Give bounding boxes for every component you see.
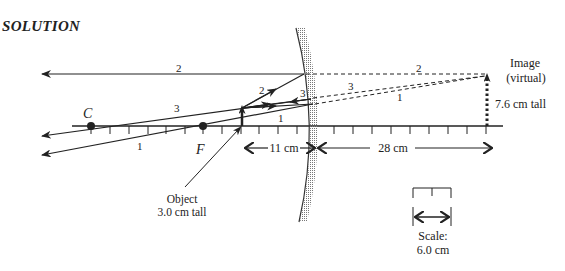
object-distance-dimension: 11 cm: [245, 141, 315, 155]
svg-text:F: F: [195, 142, 205, 157]
svg-text:3.0 cm tall: 3.0 cm tall: [158, 206, 207, 218]
ray-diagram: C F Object 3.0 cm tall 2 2 2 3 3 3: [0, 0, 565, 271]
svg-text:3: 3: [300, 87, 306, 99]
svg-text:7.6 cm tall: 7.6 cm tall: [495, 97, 547, 111]
focal-point: F: [195, 122, 207, 157]
svg-text:11 cm: 11 cm: [269, 141, 299, 155]
svg-text:Scale:: Scale:: [418, 229, 447, 243]
scale-bar: Scale: 6.0 cm: [413, 188, 451, 257]
image-label: Image (virtual) 7.6 cm tall: [495, 56, 547, 111]
svg-text:Object: Object: [167, 193, 198, 206]
svg-text:2: 2: [416, 62, 422, 74]
image-distance-dimension: 28 cm: [318, 141, 492, 155]
convex-mirror: [296, 28, 318, 222]
svg-text:2: 2: [176, 62, 182, 74]
svg-text:Image: Image: [510, 56, 540, 70]
svg-text:1: 1: [397, 91, 403, 103]
optical-axis: [72, 126, 503, 134]
svg-text:3: 3: [174, 102, 180, 114]
svg-text:28 cm: 28 cm: [378, 141, 408, 155]
svg-text:(virtual): (virtual): [506, 71, 545, 85]
svg-text:3: 3: [348, 80, 354, 92]
svg-text:6.0 cm: 6.0 cm: [417, 243, 450, 257]
svg-text:1: 1: [137, 140, 143, 152]
svg-text:1: 1: [278, 112, 284, 124]
svg-text:2: 2: [259, 84, 265, 96]
svg-text:C: C: [83, 106, 93, 121]
